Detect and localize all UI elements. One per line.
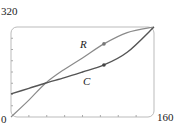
y-max-label: 320 [1,6,18,17]
axis-ticks [11,38,136,117]
x-max-label: 160 [157,112,174,123]
chart-plot [0,0,176,138]
curve-r-label: R [80,39,87,50]
origin-label: 0 [1,114,7,125]
marker-r [102,42,106,46]
marker-c [102,63,106,67]
curve-c-label: C [83,76,90,87]
